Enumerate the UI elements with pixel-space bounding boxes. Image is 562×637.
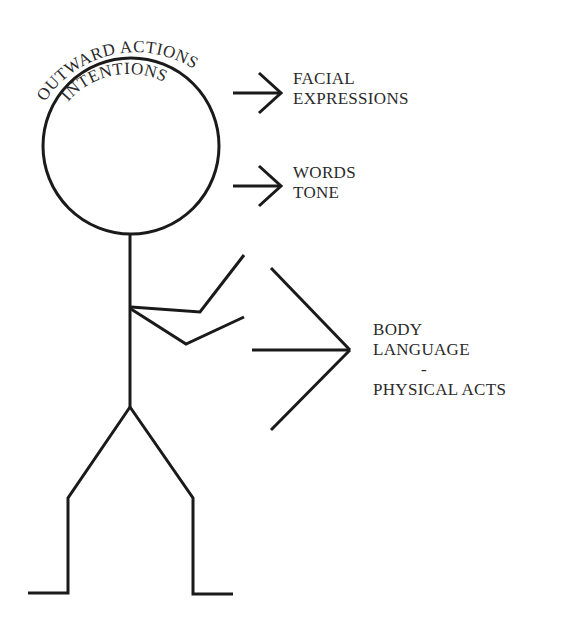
physical-acts-label: PHYSICAL ACTS <box>373 380 506 400</box>
body-language-label: BODY LANGUAGE - PHYSICAL ACTS <box>373 320 506 400</box>
arrow-words-icon <box>233 166 281 206</box>
dash-separator: - <box>373 360 506 380</box>
tone-label-line2: TONE <box>293 183 356 203</box>
body-label-line1: BODY <box>373 320 506 340</box>
body-language-bracket <box>252 268 350 430</box>
left-leg <box>28 407 130 593</box>
words-tone-label: WORDS TONE <box>293 163 356 203</box>
arrow-facial-icon <box>233 73 281 113</box>
upper-arm <box>131 255 244 312</box>
lower-arm <box>131 309 244 344</box>
facial-label-line1: FACIAL <box>293 69 409 89</box>
facial-expressions-label: FACIAL EXPRESSIONS <box>293 69 409 109</box>
language-label-line2: LANGUAGE <box>373 340 506 360</box>
stick-figure-diagram: OUTWARD ACTIONS INTENTIONS <box>0 0 562 637</box>
right-leg <box>130 407 233 594</box>
words-label-line1: WORDS <box>293 163 356 183</box>
facial-label-line2: EXPRESSIONS <box>293 89 409 109</box>
